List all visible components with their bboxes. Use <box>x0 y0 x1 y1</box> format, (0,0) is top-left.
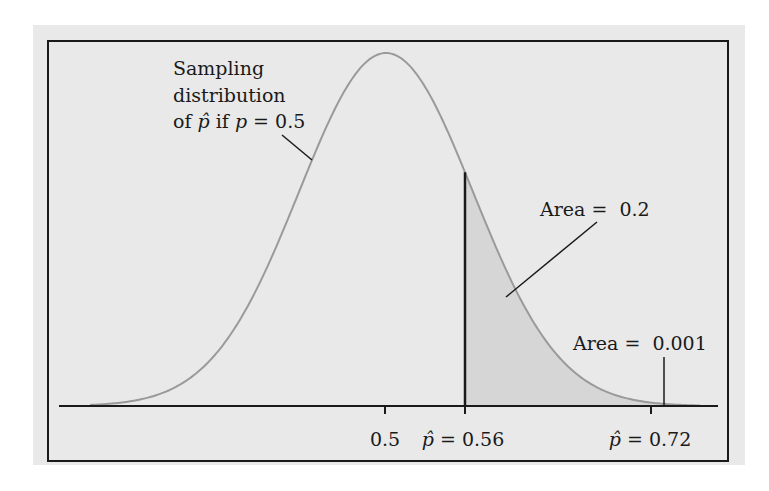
tick-0.56-value: = 0.56 <box>434 428 504 450</box>
label-of: of <box>173 110 198 132</box>
label-if: if <box>210 110 235 132</box>
tick-0.56-phat: p̂ <box>422 428 434 450</box>
curve-label-line3: of p̂ if p = 0.5 <box>173 110 305 132</box>
area-0.001-text: Area = <box>572 332 646 354</box>
area-0.2-text: Area = <box>539 198 613 220</box>
label-eq-0.5: = 0.5 <box>247 110 305 132</box>
area-0.2-label: Area = 0.2 <box>539 198 650 220</box>
sampling-distribution-figure: Sampling distribution of p̂ if p = 0.5 A… <box>0 0 769 491</box>
curve-label-line2: distribution <box>173 84 286 106</box>
tick-0.72-phat: p̂ <box>609 428 621 450</box>
label-phat: p̂ <box>198 110 210 132</box>
label-p: p <box>235 110 247 132</box>
tick-0.72-value: = 0.72 <box>621 428 691 450</box>
curve-label-line1: Sampling <box>173 57 264 79</box>
area-0.001-value: 0.001 <box>652 332 706 354</box>
tick-label-0.72: p̂ = 0.72 <box>609 428 691 450</box>
tick-label-0.5: 0.5 <box>370 428 400 450</box>
area-0.001-label: Area = 0.001 <box>572 332 707 354</box>
tick-label-0.56: p̂ = 0.56 <box>422 428 504 450</box>
area-0.2-value: 0.2 <box>619 198 649 220</box>
